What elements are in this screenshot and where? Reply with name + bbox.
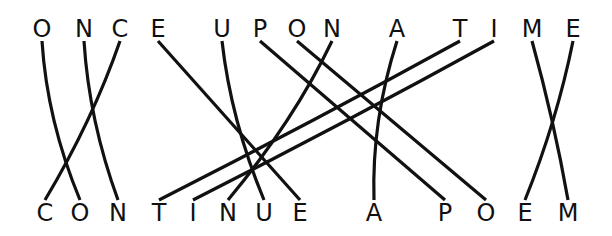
top-phrase-row: ONCEUPONATIME xyxy=(33,15,581,43)
letter-matching-diagram: ONCEUPONATIME CONTINUEAPOEM xyxy=(0,0,612,236)
top-letter: E xyxy=(565,15,580,43)
bottom-letter: P xyxy=(438,199,452,227)
top-letter: E xyxy=(150,15,165,43)
connection-lines xyxy=(42,41,573,200)
connection-line-m xyxy=(532,41,568,200)
top-letter: M xyxy=(522,15,543,43)
top-letter: N xyxy=(75,15,93,43)
connection-line-e xyxy=(158,41,300,200)
bottom-phrase-row: CONTINUEAPOEM xyxy=(37,199,579,227)
top-letter: N xyxy=(323,15,341,43)
connection-line-e xyxy=(525,41,573,200)
bottom-letter: E xyxy=(292,199,307,227)
top-letter: O xyxy=(288,15,307,43)
bottom-letter: A xyxy=(366,199,383,227)
top-letter: C xyxy=(112,15,129,43)
top-letter: A xyxy=(389,15,406,43)
bottom-letter: O xyxy=(71,199,90,227)
bottom-letter: I xyxy=(189,199,196,227)
connection-line-o xyxy=(42,41,80,200)
bottom-letter: C xyxy=(37,199,54,227)
top-letter: T xyxy=(452,15,468,43)
bottom-letter: O xyxy=(477,199,496,227)
bottom-letter: E xyxy=(517,199,532,227)
bottom-letter: U xyxy=(255,199,273,227)
bottom-letter: M xyxy=(558,199,579,227)
diagram-canvas: ONCEUPONATIME CONTINUEAPOEM xyxy=(0,0,612,236)
top-letter: U xyxy=(213,15,231,43)
bottom-letter: N xyxy=(109,199,127,227)
top-letter: I xyxy=(490,15,497,43)
top-letter: O xyxy=(33,15,52,43)
bottom-letter: T xyxy=(151,199,167,227)
bottom-letter: N xyxy=(219,199,237,227)
top-letter: P xyxy=(253,15,267,43)
